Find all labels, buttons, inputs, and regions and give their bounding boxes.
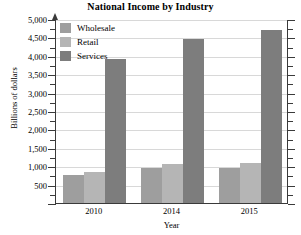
y-tick-label: 2,500 — [1, 108, 47, 117]
legend-swatch-icon — [60, 23, 71, 33]
axis-tick — [288, 84, 293, 85]
axis-tick — [288, 130, 295, 131]
axis-tick — [288, 158, 293, 159]
axis-tick — [288, 57, 295, 58]
axis-tick — [48, 186, 55, 187]
axis-tick — [48, 20, 55, 21]
axis-tick — [288, 149, 295, 150]
bar-retail-2015 — [240, 163, 261, 203]
axis-tick — [288, 112, 295, 113]
axis-tick — [50, 121, 55, 122]
x-tick-label: 2014 — [142, 206, 202, 216]
axis-tick — [288, 121, 293, 122]
axis-tick — [50, 140, 55, 141]
axis-tick — [50, 66, 55, 67]
legend-label: Services — [77, 51, 108, 61]
legend-item-retail: Retail — [60, 35, 115, 48]
y-tick-label: 4,000 — [1, 53, 47, 62]
axis-tick — [50, 29, 55, 30]
axis-tick — [50, 48, 55, 49]
legend-label: Wholesale — [77, 23, 115, 33]
y-tick-label: 5,000 — [1, 16, 47, 25]
axis-tick — [50, 176, 55, 177]
axis-tick — [288, 75, 295, 76]
y-tick-label: 2,000 — [1, 126, 47, 135]
axis-tick — [288, 48, 293, 49]
y-tick-label: 3,500 — [1, 71, 47, 80]
legend-label: Retail — [77, 37, 99, 47]
axis-tick — [288, 140, 293, 141]
axis-tick — [288, 94, 295, 95]
axis-tick — [288, 66, 293, 67]
axis-tick — [50, 158, 55, 159]
chart-legend: WholesaleRetailServices — [60, 21, 115, 63]
axis-tick — [288, 103, 293, 104]
gridline — [56, 75, 287, 76]
axis-tick — [288, 176, 293, 177]
axis-tick — [288, 29, 293, 30]
axis-tick — [48, 112, 55, 113]
axis-tick — [48, 57, 55, 58]
axis-tick — [288, 38, 295, 39]
bar-wholesale-2015 — [219, 168, 240, 203]
axis-tick — [50, 84, 55, 85]
gridline — [56, 112, 287, 113]
x-tick-label: 2015 — [219, 206, 279, 216]
chart-figure: National Income by Industry 5001,0001,50… — [0, 0, 301, 235]
bar-services-2014 — [183, 39, 204, 203]
gridline — [56, 149, 287, 150]
bar-services-2015 — [261, 30, 282, 203]
chart-title: National Income by Industry — [0, 1, 301, 12]
legend-swatch-icon — [60, 51, 71, 61]
x-tick-label: 2010 — [64, 206, 124, 216]
y-tick-label: 4,500 — [1, 34, 47, 43]
axis-tick — [48, 75, 55, 76]
axis-tick — [48, 94, 55, 95]
y-axis-title: Billions of dollars — [9, 38, 19, 158]
axis-tick — [288, 20, 295, 21]
axis-tick — [288, 167, 295, 168]
bar-wholesale-2010 — [63, 175, 84, 203]
axis-tick — [288, 204, 295, 205]
legend-swatch-icon — [60, 37, 71, 47]
axis-tick — [48, 167, 55, 168]
y-tick-label: 3,000 — [1, 90, 47, 99]
axis-tick — [48, 38, 55, 39]
legend-item-services: Services — [60, 49, 115, 62]
bar-retail-2014 — [162, 164, 183, 203]
axis-tick — [50, 103, 55, 104]
axis-tick — [50, 195, 55, 196]
axis-tick — [48, 204, 55, 205]
bar-wholesale-2014 — [141, 168, 162, 203]
y-tick-label: 1,000 — [1, 163, 47, 172]
legend-item-wholesale: Wholesale — [60, 21, 115, 34]
y-tick-label: 500 — [1, 182, 47, 191]
gridline — [56, 130, 287, 131]
x-axis-title: Year — [55, 220, 288, 230]
gridline — [56, 94, 287, 95]
bar-retail-2010 — [84, 172, 105, 203]
axis-tick — [288, 186, 295, 187]
bar-services-2010 — [105, 59, 126, 203]
axis-tick — [48, 149, 55, 150]
axis-tick — [48, 130, 55, 131]
axis-tick — [288, 195, 293, 196]
y-tick-label: 1,500 — [1, 145, 47, 154]
